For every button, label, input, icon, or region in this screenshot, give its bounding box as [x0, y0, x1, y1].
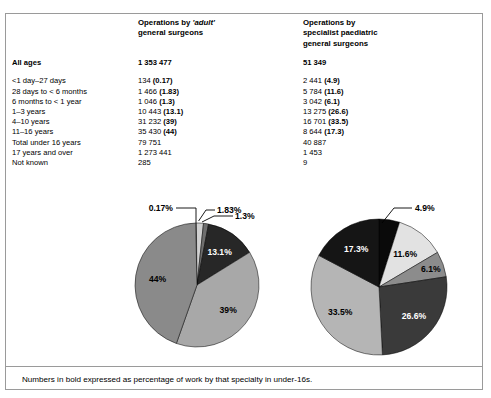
table-row: 11–16 years35 430 (44)8 644 (17.3)	[12, 127, 482, 137]
row-paed-value: 16 701 (33.5)	[303, 117, 482, 127]
row-adult-percent: (13.1)	[163, 107, 183, 116]
row-label: 6 months to < 1 year	[12, 97, 138, 107]
row-paed-percent: (17.3)	[324, 127, 344, 136]
pie-left-callout-0-17: 0.17%	[149, 203, 174, 213]
row-paed-value-number: 9	[303, 158, 307, 167]
row-adult-value: 10 443 (13.1)	[138, 107, 303, 117]
footnote-divider	[6, 366, 482, 367]
header-adult-line1-pre: Operations by	[138, 18, 193, 27]
row-adult-percent: (1.83)	[159, 87, 179, 96]
pie-slice-label: 17.3%	[344, 244, 369, 254]
pie-slice-label: 33.5%	[328, 307, 353, 317]
header-cell-adult: Operations by 'adult' general surgeons	[138, 18, 303, 52]
pie-left-callout-1-3: 1.3%	[235, 211, 255, 221]
row-paed-value-number: 13 275	[303, 107, 328, 116]
header-adult-emphasis: 'adult'	[193, 18, 215, 27]
row-paed-value-number: 1 453	[303, 148, 322, 157]
row-adult-value: 31 232 (39)	[138, 117, 303, 127]
all-ages-adult-value: 1 353 477	[138, 52, 303, 75]
row-paed-percent: (11.6)	[324, 87, 343, 96]
row-paed-value-number: 16 701	[303, 117, 328, 126]
table-row: Not known2859	[12, 158, 482, 168]
pie-left-slice-group	[135, 223, 259, 347]
row-paed-value-number: 2 441	[303, 76, 324, 85]
row-paed-percent: (6.1)	[324, 97, 340, 106]
row-label: Not known	[12, 158, 138, 168]
pie-slice-label: 39%	[220, 305, 238, 315]
pie-slice-label: 13.1%	[207, 247, 232, 257]
pie-right-slice-group	[311, 219, 447, 355]
row-adult-value-number: 1 466	[138, 87, 159, 96]
table-row: 17 years and over1 273 4411 453	[12, 148, 482, 158]
row-paed-percent: (4.9)	[324, 76, 340, 85]
pie-slice-label: 44%	[149, 274, 167, 284]
all-ages-paed-value: 51 349	[303, 52, 482, 75]
row-paed-value: 3 042 (6.1)	[303, 97, 482, 107]
pie-right-svg: 11.6%6.1%26.6%33.5%17.3% 4.9%	[274, 192, 479, 372]
row-adult-value-number: 35 430	[138, 127, 163, 136]
header-cell-blank	[12, 18, 138, 52]
row-adult-value: 1 466 (1.83)	[138, 87, 303, 97]
table-row: Total under 16 years79 75140 887	[12, 138, 482, 148]
header-paed-line2: specialist paediatric	[303, 28, 378, 37]
row-paed-percent: (26.6)	[328, 107, 348, 116]
row-adult-value-number: 79 751	[138, 138, 161, 147]
table-row: 6 months to < 1 year1 046 (1.3)3 042 (6.…	[12, 97, 482, 107]
row-paed-percent: (33.5)	[328, 117, 348, 126]
header-adult-line2: general surgeons	[138, 28, 203, 37]
data-table-area: Operations by 'adult' general surgeons O…	[12, 18, 482, 168]
row-adult-value-number: 134	[138, 76, 153, 85]
row-paed-value: 9	[303, 158, 482, 168]
row-paed-value-number: 40 887	[303, 138, 326, 147]
header-paed-line1: Operations by	[303, 18, 355, 27]
row-label: 28 days to < 6 months	[12, 87, 138, 97]
table-row: 28 days to < 6 months1 466 (1.83)5 784 (…	[12, 87, 482, 97]
row-adult-percent: (44)	[163, 127, 177, 136]
pie-slice-label: 11.6%	[393, 249, 417, 259]
all-ages-label: All ages	[12, 52, 138, 75]
row-adult-value: 285	[138, 158, 303, 168]
row-adult-percent: (39)	[163, 117, 177, 126]
row-adult-percent: (1.3)	[159, 97, 175, 106]
pie-left-svg: 13.1%39%44% 0.17% 1.83% 1.3%	[94, 192, 274, 372]
row-paed-value: 5 784 (11.6)	[303, 87, 482, 97]
row-paed-value: 1 453	[303, 148, 482, 158]
row-paed-value-number: 3 042	[303, 97, 324, 106]
row-label: 11–16 years	[12, 127, 138, 137]
row-adult-percent: (0.17)	[153, 76, 173, 85]
pie-right-callout-4-9: 4.9%	[415, 203, 435, 213]
row-paed-value: 8 644 (17.3)	[303, 127, 482, 137]
row-label: 4–10 years	[12, 117, 138, 127]
row-adult-value: 1 046 (1.3)	[138, 97, 303, 107]
footnote-text: Numbers in bold expressed as percentage …	[22, 374, 312, 385]
row-label: Total under 16 years	[12, 138, 138, 148]
row-adult-value-number: 31 232	[138, 117, 163, 126]
table-row: <1 day–27 days134 (0.17)2 441 (4.9)	[12, 76, 482, 86]
table-row: 4–10 years31 232 (39)16 701 (33.5)	[12, 117, 482, 127]
row-label: 1–3 years	[12, 107, 138, 117]
row-paed-value-number: 8 644	[303, 127, 324, 136]
pie-slice-label: 6.1%	[421, 264, 441, 274]
operations-table: Operations by 'adult' general surgeons O…	[12, 18, 482, 168]
row-paed-value: 2 441 (4.9)	[303, 76, 482, 86]
chart-specialist-paediatric-surgeons: 11.6%6.1%26.6%33.5%17.3% 4.9%	[274, 192, 479, 372]
row-label: 17 years and over	[12, 148, 138, 158]
table-body: <1 day–27 days134 (0.17)2 441 (4.9)28 da…	[12, 76, 482, 168]
row-adult-value-number: 1 273 441	[138, 148, 172, 157]
row-adult-value-number: 285	[138, 158, 151, 167]
row-paed-value-number: 5 784	[303, 87, 324, 96]
row-adult-value: 79 751	[138, 138, 303, 148]
row-adult-value: 1 273 441	[138, 148, 303, 158]
row-adult-value-number: 10 443	[138, 107, 163, 116]
table-header-row: Operations by 'adult' general surgeons O…	[12, 18, 482, 52]
leader-line-1-3	[202, 216, 233, 222]
row-adult-value: 134 (0.17)	[138, 76, 303, 86]
table-row: 1–3 years10 443 (13.1)13 275 (26.6)	[12, 107, 482, 117]
row-paed-value: 40 887	[303, 138, 482, 148]
header-cell-paediatric: Operations by specialist paediatric gene…	[303, 18, 482, 52]
table-row-all-ages: All ages 1 353 477 51 349	[12, 52, 482, 75]
pie-charts-container: 13.1%39%44% 0.17% 1.83% 1.3% 11.6%6.1%26…	[6, 192, 484, 372]
row-adult-value: 35 430 (44)	[138, 127, 303, 137]
row-paed-value: 13 275 (26.6)	[303, 107, 482, 117]
pie-slice-label: 26.6%	[402, 311, 427, 321]
